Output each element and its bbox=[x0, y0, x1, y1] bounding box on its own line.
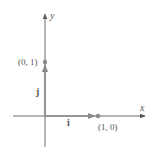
vector-j-label: j bbox=[35, 86, 39, 97]
point-1-0 bbox=[96, 114, 100, 118]
x-axis-label: x bbox=[139, 102, 145, 113]
point-0-1-label: (0, 1) bbox=[18, 57, 38, 67]
point-0-1 bbox=[43, 60, 47, 64]
y-axis-label: y bbox=[49, 10, 55, 21]
coordinate-diagram: y x (0, 1) (1, 0) j i bbox=[0, 0, 157, 153]
vector-i-label: i bbox=[67, 117, 70, 128]
point-1-0-label: (1, 0) bbox=[98, 122, 118, 132]
